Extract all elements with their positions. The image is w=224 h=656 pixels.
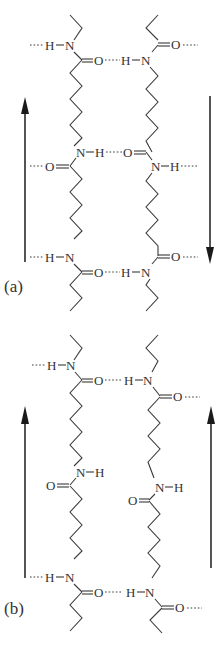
atom-h: H [95, 145, 104, 160]
arrow-up-icon [21, 97, 29, 262]
atom-n: N [141, 265, 151, 280]
arrow-up-icon [21, 406, 29, 578]
atom-h: H [95, 465, 104, 480]
atom-n: N [151, 159, 161, 174]
atom-o: O [45, 159, 54, 174]
atom-o: O [128, 493, 137, 508]
atom-o: O [123, 145, 132, 160]
atom-n: N [66, 358, 76, 373]
atom-n: N [76, 145, 86, 160]
atom-o: O [94, 53, 103, 68]
atom-n: N [76, 465, 86, 480]
atom-o: O [94, 265, 103, 280]
atom-o: O [171, 37, 180, 52]
atom-h: H [45, 250, 54, 265]
atom-h: H [121, 53, 130, 68]
arrow-up-icon [207, 406, 215, 568]
atom-o: O [94, 585, 103, 600]
atom-n: N [65, 570, 75, 585]
atom-n: N [65, 250, 75, 265]
atom-n: N [145, 585, 155, 600]
atom-o: O [175, 600, 184, 615]
arrow-down-icon [206, 96, 214, 264]
polyamide-hbond-diagram: H N O N H O H N O [0, 0, 224, 656]
atom-h: H [47, 358, 56, 373]
atom-n: N [65, 38, 75, 53]
panel-label-b: (b) [4, 599, 24, 618]
atom-o: O [94, 373, 103, 388]
atom-n: N [141, 53, 151, 68]
atom-o: O [46, 478, 55, 493]
atom-h: H [121, 265, 130, 280]
atom-h: H [124, 373, 133, 388]
atom-h: H [170, 159, 179, 174]
atom-o: O [173, 389, 182, 404]
panel-label-a: (a) [4, 277, 23, 296]
panel-b: H N O N H O H N O H N [4, 335, 215, 633]
atom-n: N [155, 480, 165, 495]
atom-h: H [45, 38, 54, 53]
atom-o: O [171, 249, 180, 264]
atom-h: H [45, 570, 54, 585]
atom-h: H [174, 480, 183, 495]
panel-a: H N O N H O H N O [4, 15, 214, 311]
atom-h: H [126, 585, 135, 600]
atom-n: N [143, 373, 153, 388]
